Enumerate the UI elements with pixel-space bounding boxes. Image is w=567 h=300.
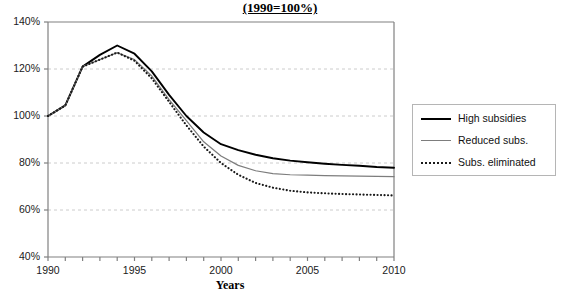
series-line-subs-eliminated: [48, 53, 394, 196]
x-axis-tick-label: 2000: [201, 264, 241, 276]
y-axis-tick-label: 100%: [0, 109, 40, 121]
chart-legend: High subsidies Reduced subs. Subs. elimi…: [412, 104, 556, 176]
legend-line-solid-thick-icon: [421, 113, 451, 123]
x-axis-tick-label: 2010: [374, 264, 414, 276]
x-axis-tick-label: 1990: [28, 264, 68, 276]
x-axis-tick-label: 2005: [288, 264, 328, 276]
series-line-high-subsidies: [48, 46, 394, 168]
legend-label: Subs. eliminated: [458, 156, 536, 168]
y-axis-tick-label: 140%: [0, 15, 40, 27]
legend-item-reduced-subs: Reduced subs.: [421, 131, 528, 149]
legend-item-subs-eliminated: Subs. eliminated: [421, 153, 536, 171]
y-axis-tick-label: 60%: [0, 203, 40, 215]
y-axis-tick-label: 80%: [0, 156, 40, 168]
legend-line-solid-thin-icon: [421, 135, 451, 145]
legend-label: Reduced subs.: [458, 134, 528, 146]
series-line-reduced-subs: [48, 53, 394, 177]
chart-container: (1990=100%) 140%120%100%80%60%40% 199019…: [0, 0, 567, 300]
y-axis-tick-label: 120%: [0, 62, 40, 74]
y-axis-tick-label: 40%: [0, 250, 40, 262]
legend-label: High subsidies: [458, 112, 526, 124]
x-axis-tick-label: 1995: [115, 264, 155, 276]
x-axis-title: Years: [150, 278, 310, 293]
legend-line-dotted-icon: [421, 157, 451, 167]
legend-item-high-subsidies: High subsidies: [421, 109, 526, 127]
